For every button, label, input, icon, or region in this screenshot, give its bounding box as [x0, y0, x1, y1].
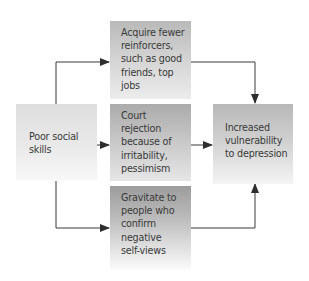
node-label: Poor social skills	[29, 130, 78, 156]
node-acquire-fewer-reinforcers: Acquire fewer reinforcers, such as good …	[110, 21, 191, 99]
node-court-rejection: Court rejection because of irritability,…	[110, 104, 191, 181]
node-label: Acquire fewer reinforcers, such as good …	[121, 26, 185, 92]
node-label: Increased vulnerability to depression	[225, 121, 287, 161]
node-poor-social-skills: Poor social skills	[16, 104, 97, 180]
arrow-poor-to-gravitate	[56, 181, 109, 228]
node-label: Gravitate to people who confirm negative…	[121, 191, 176, 257]
arrow-acquire-to-increased	[184, 62, 255, 103]
node-label: Court rejection because of irritability,…	[121, 109, 171, 175]
node-gravitate-to-people: Gravitate to people who confirm negative…	[110, 186, 191, 270]
arrow-poor-to-acquire	[56, 62, 109, 104]
arrow-gravitate-to-increased	[184, 184, 255, 228]
node-increased-vulnerability: Increased vulnerability to depression	[213, 104, 293, 184]
